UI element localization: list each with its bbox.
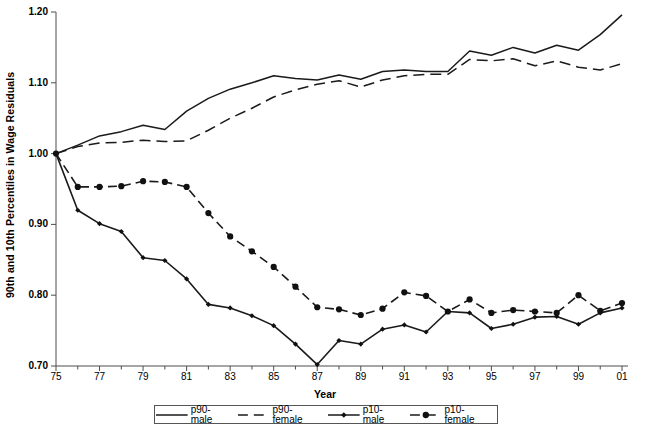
data-point-p10-female: [358, 312, 364, 318]
data-point-p10-female: [53, 151, 59, 157]
series-line-p10-male: [56, 154, 622, 365]
legend-label: p10-male: [363, 405, 407, 425]
data-point-p10-female: [96, 184, 102, 190]
data-point-p10-female: [619, 300, 625, 306]
data-point-p10-female: [510, 307, 516, 313]
data-point-p10-female: [597, 308, 603, 314]
legend-item-p90-male[interactable]: p90-male: [155, 405, 235, 425]
series-line-p90-female: [56, 59, 622, 154]
data-point-p10-female: [532, 308, 538, 314]
plot-area: [0, 0, 651, 400]
data-point-p10-female: [271, 264, 277, 270]
legend-swatch-solid-diamond: [327, 410, 361, 420]
data-point-p10-female: [162, 179, 168, 185]
data-point-p10-female: [488, 310, 494, 316]
legend-item-p90-female[interactable]: p90-female: [237, 405, 325, 425]
legend-item-p10-male[interactable]: p10-male: [327, 405, 407, 425]
data-point-p10-female: [227, 233, 233, 239]
data-point-p10-female: [467, 296, 473, 302]
data-point-p10-female: [423, 293, 429, 299]
data-point-p10-male: [619, 305, 624, 310]
data-point-p10-female: [118, 183, 124, 189]
data-point-p10-male: [532, 315, 537, 320]
series-line-p10-female: [56, 154, 622, 315]
data-point-p10-female: [445, 308, 451, 314]
chart-legend: p90-malep90-femalep10-malep10-female: [154, 405, 498, 424]
legend-swatch-solid: [155, 410, 189, 420]
legend-label: p10-female: [445, 405, 497, 425]
series-line-p90-male: [56, 15, 622, 154]
data-point-p10-female: [554, 310, 560, 316]
legend-item-p10-female[interactable]: p10-female: [409, 405, 497, 425]
legend-label: p90-female: [273, 405, 325, 425]
data-point-p10-female: [140, 178, 146, 184]
data-point-p10-female: [401, 289, 407, 295]
data-point-p10-female: [205, 210, 211, 216]
legend-label: p90-male: [191, 405, 235, 425]
data-point-p10-female: [314, 304, 320, 310]
data-point-p10-female: [292, 284, 298, 290]
data-point-p10-male: [402, 322, 407, 327]
data-point-p10-female: [75, 184, 81, 190]
data-point-p10-female: [184, 184, 190, 190]
data-point-p10-female: [379, 306, 385, 312]
data-point-p10-male: [228, 305, 233, 310]
data-point-p10-female: [336, 306, 342, 312]
legend-swatch-dashed: [237, 410, 271, 420]
data-point-p10-female: [249, 248, 255, 254]
data-point-p10-male: [249, 313, 254, 318]
legend-swatch-dashed-circle: [409, 410, 443, 420]
wage-residuals-chart: 90th and 10th Percentiles in Wage Residu…: [0, 0, 651, 434]
data-point-p10-male: [511, 322, 516, 327]
data-point-p10-female: [575, 292, 581, 298]
